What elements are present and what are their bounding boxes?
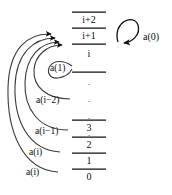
arc-label-ai-second: a(i) — [26, 167, 39, 177]
arc-label-ai-first: a(i) — [29, 147, 42, 157]
stack-level-i: i — [72, 49, 106, 59]
self-loop-arc — [117, 20, 139, 43]
ellipsis-dot-2: · — [84, 97, 94, 105]
arc-label-a1: a(1) — [50, 63, 65, 73]
ellipsis-dot-1: · — [84, 80, 94, 88]
self-loop-label-a0: a(0) — [143, 31, 159, 42]
stack-level-0: 0 — [72, 172, 106, 182]
stack-level-1: 1 — [72, 156, 106, 166]
stack-level-i2: i+2 — [72, 15, 106, 25]
arc-label-ai-minus-2: a(i−2) — [36, 95, 59, 105]
stack-level-3: 3 — [72, 123, 106, 133]
ellipsis-dot-3: · — [84, 114, 94, 122]
stack-level-i1: i+1 — [72, 31, 106, 41]
arc-label-ai-minus-1: a(i−1) — [35, 126, 58, 136]
stack-level-2: 2 — [72, 140, 106, 150]
recursion-stack-figure: i+2 i+1 i · · · · 3 2 1 0 a(1) a(i−2) a(… — [0, 0, 172, 195]
arc-ai-1 — [25, 42, 68, 130]
